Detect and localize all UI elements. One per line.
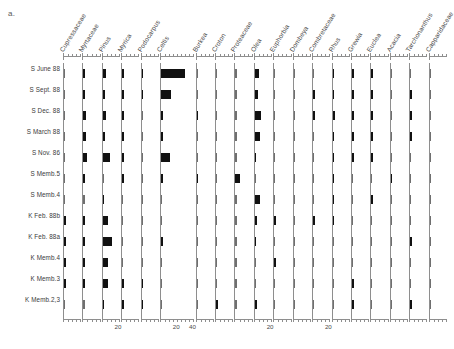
- taxon-bar: [64, 216, 66, 226]
- taxon-bar: [235, 279, 236, 289]
- taxon-bar: [64, 258, 66, 268]
- taxon-tick-axis: [312, 53, 329, 60]
- taxon-tick-axis: [234, 53, 251, 60]
- taxon-bar: [122, 90, 124, 100]
- taxon-bar: [313, 237, 314, 247]
- sample-label: S Memb.4: [31, 190, 61, 197]
- taxon-bar: [294, 300, 295, 310]
- percentage-axis: 2020402020: [63, 315, 448, 349]
- taxon-bar: [255, 300, 257, 310]
- taxon-bar: [410, 90, 412, 100]
- taxon-bar: [235, 237, 236, 247]
- taxon-bar: [294, 237, 295, 247]
- taxon-name-label: Rhus: [327, 36, 341, 53]
- taxon-bar: [274, 111, 275, 121]
- sample-label-axis: S June 88S Sept. 88S Dec. 88S March 88S …: [0, 60, 63, 310]
- taxon-bar: [83, 153, 87, 163]
- taxon-bar: [391, 258, 392, 268]
- column-baseline: [332, 63, 333, 315]
- column-baseline: [293, 63, 294, 315]
- plot-area: [63, 63, 448, 315]
- taxon-bar: [83, 237, 85, 247]
- axis-tick-label: 20: [325, 323, 332, 330]
- column-baseline: [234, 63, 235, 315]
- taxon-bar: [142, 258, 143, 268]
- taxon-bar: [333, 279, 334, 289]
- taxon-tick-axis: [102, 53, 119, 60]
- sample-label: S Nov. 86: [32, 148, 60, 155]
- sample-label: S March 88: [27, 127, 60, 134]
- taxon-bar: [255, 258, 256, 268]
- taxon-bar: [313, 90, 315, 100]
- taxon-bar: [64, 195, 65, 205]
- taxon-bar: [235, 216, 236, 226]
- percentage-tick-axis: [390, 315, 407, 322]
- column-baseline: [102, 63, 103, 315]
- taxon-bar: [352, 195, 353, 205]
- taxon-bar: [391, 195, 392, 205]
- taxon-bar: [103, 90, 105, 100]
- taxon-tick-axis: [63, 53, 80, 60]
- taxon-bar: [216, 69, 217, 79]
- taxon-bar: [391, 279, 392, 289]
- taxon-bar: [64, 300, 65, 310]
- taxon-column: [254, 63, 270, 315]
- taxon-bar: [430, 258, 431, 268]
- taxon-bar: [391, 237, 392, 247]
- taxon-bar: [333, 300, 334, 310]
- taxon-bar: [255, 132, 260, 142]
- taxon-tick-axis: [370, 53, 387, 60]
- taxon-column: [141, 63, 157, 315]
- taxon-bar: [103, 153, 110, 163]
- taxon-bar: [371, 237, 372, 247]
- taxon-bar: [64, 111, 65, 121]
- panel-letter: a.: [8, 9, 15, 18]
- taxon-column: [82, 63, 98, 315]
- taxon-bar: [197, 174, 199, 184]
- taxon-bar: [235, 69, 236, 79]
- taxon-bar: [333, 132, 335, 142]
- taxon-tick-axis: [141, 53, 158, 60]
- taxon-bar: [235, 174, 240, 184]
- taxon-bar: [122, 300, 124, 310]
- taxon-name-label: Croton: [210, 32, 227, 53]
- taxon-bar: [313, 258, 314, 268]
- taxon-bar: [352, 132, 354, 142]
- taxon-tick-axis: [121, 53, 138, 60]
- taxon-column: [196, 63, 212, 315]
- percentage-tick-axis: [273, 315, 290, 322]
- taxon-name-label: Celtis: [155, 35, 170, 53]
- taxon-tick-axis: [215, 53, 232, 60]
- taxon-bar: [255, 195, 260, 205]
- taxon-bar: [410, 111, 412, 121]
- taxon-column: [273, 63, 289, 315]
- column-baseline: [196, 63, 197, 315]
- taxon-bar: [103, 258, 108, 268]
- taxon-bar: [122, 195, 123, 205]
- taxon-bar: [391, 90, 392, 100]
- taxon-bar: [255, 174, 256, 184]
- taxon-bar: [216, 300, 218, 310]
- taxon-bar: [391, 174, 393, 184]
- taxon-bar: [216, 90, 217, 100]
- taxon-bar: [294, 111, 295, 121]
- taxon-column: [429, 63, 445, 315]
- taxon-bar: [161, 279, 162, 289]
- taxon-bar: [64, 153, 65, 163]
- taxon-bar: [274, 153, 275, 163]
- axis-tick-label: 20: [173, 323, 180, 330]
- taxon-bar: [235, 195, 236, 205]
- column-baseline: [351, 63, 352, 315]
- taxon-bar: [333, 195, 335, 205]
- taxon-bar: [83, 216, 85, 226]
- taxon-bar: [274, 258, 276, 268]
- taxon-bar: [274, 174, 275, 184]
- taxon-bar: [352, 174, 353, 184]
- taxon-tick-axis: [196, 53, 213, 60]
- taxon-bar: [371, 216, 372, 226]
- taxon-bar: [274, 279, 275, 289]
- taxon-bar: [430, 237, 431, 247]
- taxon-bar: [391, 216, 392, 226]
- taxon-bar: [391, 153, 392, 163]
- taxon-bar: [371, 279, 372, 289]
